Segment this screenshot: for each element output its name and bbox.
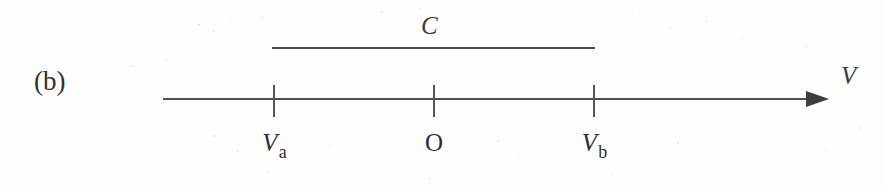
scan-noise	[0, 0, 885, 186]
figure-panel-b: (b) C V Va O Vb	[0, 0, 885, 186]
tick-mark-va	[273, 85, 275, 117]
axis-variable-label: V	[841, 63, 856, 88]
tick-mark-origin	[433, 85, 435, 117]
axis-line	[163, 98, 813, 100]
tick-label-va-variable: V	[262, 129, 277, 156]
set-label-c: C	[421, 13, 438, 38]
span-bar-c	[272, 47, 595, 49]
panel-tag: (b)	[34, 68, 65, 95]
tick-label-va: Va	[262, 130, 285, 155]
tick-label-va-subscript: a	[279, 142, 287, 162]
tick-label-origin-variable: O	[425, 129, 443, 156]
tick-label-vb-subscript: b	[598, 142, 607, 162]
tick-label-vb-variable: V	[582, 129, 597, 156]
tick-label-vb: Vb	[582, 130, 606, 155]
tick-label-origin: O	[425, 130, 443, 155]
tick-mark-vb	[593, 85, 595, 117]
axis-arrowhead-icon	[806, 91, 829, 107]
